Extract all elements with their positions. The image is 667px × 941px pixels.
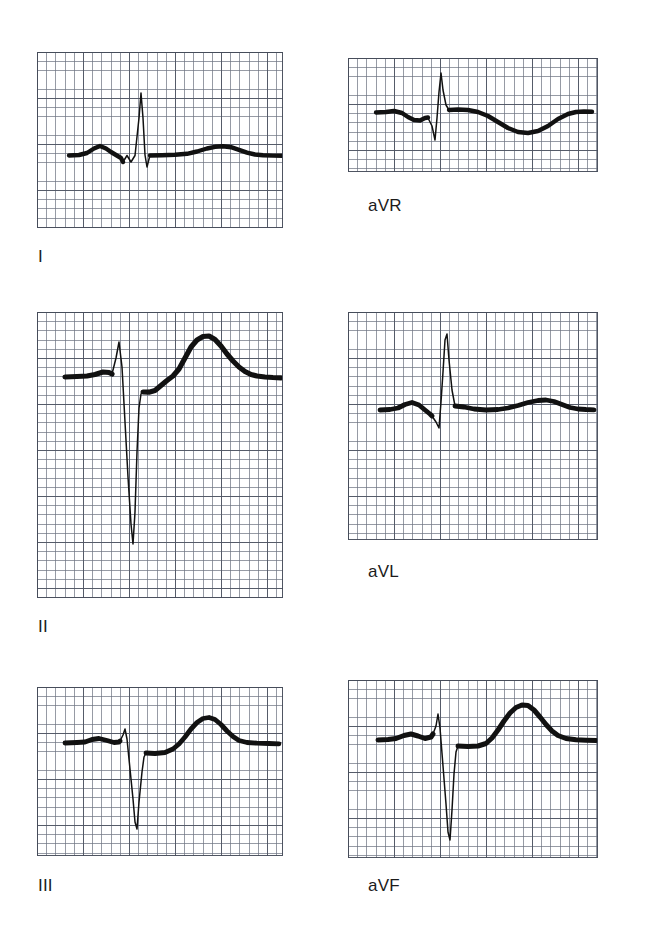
ecg-waveform-thick [378, 705, 596, 747]
ecg-waveform-qrs [120, 729, 146, 829]
ecg-waveform-qrs [123, 93, 150, 167]
lead-label-iii: III [38, 876, 53, 896]
ecg-waveform-thick [69, 146, 282, 162]
ecg-trace-lead-avf [348, 680, 598, 858]
ecg-panel-lead-iii [37, 687, 283, 856]
ecg-trace-lead-ii [37, 312, 283, 598]
ecg-panel-lead-i [37, 52, 283, 228]
lead-label-avr: aVR [368, 196, 402, 216]
ecg-panel-lead-ii [37, 312, 283, 598]
lead-label-avf: aVF [368, 876, 400, 896]
ecg-trace-lead-avl [348, 312, 598, 540]
lead-label-i: I [38, 247, 43, 267]
ecg-waveform-qrs [428, 73, 449, 140]
ecg-panel-lead-avl [348, 312, 598, 540]
ecg-trace-lead-iii [37, 687, 283, 856]
ecg-trace-lead-avr [348, 58, 598, 172]
ecg-waveform-thick [65, 718, 279, 754]
ecg-waveform-qrs [432, 334, 455, 428]
ecg-waveform-thick [376, 110, 592, 134]
lead-label-avl: aVL [368, 562, 399, 582]
ecg-figure: I aVR II aVL III [0, 0, 667, 941]
ecg-waveform-thick [65, 336, 281, 392]
ecg-waveform-qrs [433, 714, 458, 840]
ecg-panel-lead-avf [348, 680, 598, 858]
ecg-waveform-qrs [112, 342, 143, 544]
ecg-trace-lead-i [37, 52, 283, 228]
ecg-waveform-thick [380, 400, 594, 416]
ecg-panel-lead-avr [348, 58, 598, 172]
lead-label-ii: II [38, 617, 48, 637]
